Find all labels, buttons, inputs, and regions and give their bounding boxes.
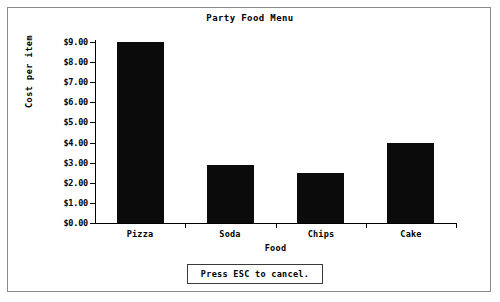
y-axis-tick-label: $3.00 xyxy=(52,158,88,168)
y-axis-tick xyxy=(90,143,95,144)
screen: Party Food Menu $0.00$1.00$2.00$3.00$4.0… xyxy=(0,0,500,302)
status-message-text: Press ESC to cancel. xyxy=(201,269,309,279)
y-axis-tick-label: $9.00 xyxy=(52,37,88,47)
y-axis-tick-label: $1.00 xyxy=(52,198,88,208)
x-axis-category-label: Chips xyxy=(276,229,366,239)
y-axis-tick xyxy=(90,42,95,43)
y-axis-tick xyxy=(90,223,95,224)
y-axis-tick-label: $4.00 xyxy=(52,138,88,148)
y-axis-tick xyxy=(90,62,95,63)
x-axis-tick xyxy=(185,223,186,228)
status-message-box: Press ESC to cancel. xyxy=(187,264,323,284)
y-axis-tick-label: $2.00 xyxy=(52,178,88,188)
y-axis-tick xyxy=(90,203,95,204)
y-axis-tick-label: $6.00 xyxy=(52,97,88,107)
y-axis-tick xyxy=(90,163,95,164)
x-axis-tick xyxy=(366,223,367,228)
y-axis-tick xyxy=(90,82,95,83)
x-axis-category-label: Cake xyxy=(366,229,456,239)
x-axis-category-label: Soda xyxy=(185,229,275,239)
bar xyxy=(297,173,344,223)
chart-title: Party Food Menu xyxy=(0,13,500,23)
y-axis-tick-label: $8.00 xyxy=(52,57,88,67)
x-axis-category-label: Pizza xyxy=(95,229,185,239)
x-axis-tick xyxy=(456,223,457,228)
bar xyxy=(387,143,434,223)
x-axis-title: Food xyxy=(95,243,456,253)
y-axis-tick xyxy=(90,183,95,184)
y-axis-tick-label: $7.00 xyxy=(52,77,88,87)
x-axis-tick xyxy=(276,223,277,228)
bar xyxy=(117,42,164,223)
y-axis-title: Cost per item xyxy=(24,94,34,108)
y-axis-tick xyxy=(90,122,95,123)
bar xyxy=(207,165,254,223)
y-axis-tick-label: $5.00 xyxy=(52,117,88,127)
y-axis-tick xyxy=(90,102,95,103)
y-axis-line xyxy=(95,40,96,224)
y-axis-tick-label: $0.00 xyxy=(52,218,88,228)
